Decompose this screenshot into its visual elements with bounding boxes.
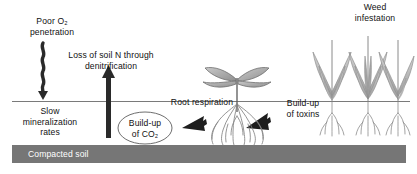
wavy-arrow-oxygen-down [38, 43, 48, 100]
arrow-toxins-right [246, 113, 271, 130]
weed-clump [379, 40, 414, 136]
label-slow-mineralization-rates: Slow mineralization rates [8, 106, 92, 138]
label-weed-infestation: Weed infestation [340, 2, 410, 23]
label-loss-of-soil-nitrogen: Loss of soil N through denitrification [60, 50, 162, 71]
label-poor-oxygen-penetration: Poor O₂ penetration [14, 16, 90, 37]
weed-clump-group [313, 36, 414, 136]
label-build-up-of-toxins: Build-up of toxins [272, 98, 334, 119]
soil-compaction-diagram: Poor O₂ penetration Loss of soil N throu… [0, 0, 417, 174]
weed-clump [349, 36, 387, 136]
label-root-respiration: Root respiration [157, 97, 247, 108]
label-compacted-soil: Compacted soil [28, 149, 89, 159]
weed-clump [313, 40, 351, 136]
label-build-up-of-co2: Build-up of CO₂ [117, 118, 173, 139]
arrow-root-respiration-left [182, 116, 207, 131]
